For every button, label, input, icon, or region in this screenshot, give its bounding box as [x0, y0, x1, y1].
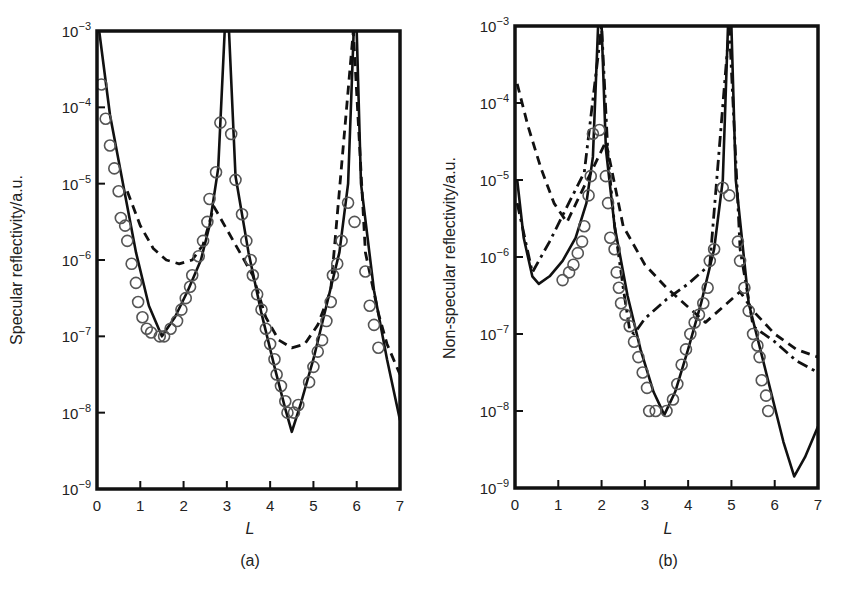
x-tick-label: 7	[814, 496, 822, 513]
y-tick-label: 10−3	[62, 20, 91, 40]
data-point-marker	[137, 312, 148, 323]
figure: 10−310−410−510−610−710−810−9 01234567 Sp…	[0, 0, 843, 596]
x-tick-label: 4	[684, 496, 692, 513]
data-point-marker	[605, 232, 616, 243]
panel-a-frame	[97, 31, 400, 489]
data-point-marker	[349, 216, 360, 227]
x-tick-label: 3	[641, 496, 649, 513]
x-tick-label: 4	[266, 497, 274, 514]
data-point-marker	[226, 129, 237, 140]
data-point-marker	[369, 319, 380, 330]
data-point-marker	[109, 163, 120, 174]
x-tick-label: 1	[554, 496, 562, 513]
data-point-marker	[104, 140, 115, 151]
data-point-marker	[364, 300, 375, 311]
data-point-marker	[130, 277, 141, 288]
x-tick-label: 5	[309, 497, 317, 514]
panel-a-caption: (a)	[240, 552, 260, 569]
data-point-marker	[126, 258, 137, 269]
data-point-marker	[572, 248, 583, 259]
y-tick-label: 10−3	[480, 15, 509, 35]
y-tick-label: 10−5	[62, 173, 91, 193]
y-tick-label: 10−5	[480, 169, 509, 189]
panel-a-x-ticks: 01234567	[93, 481, 404, 514]
y-tick-label: 10−4	[480, 92, 509, 112]
data-point-marker	[133, 296, 144, 307]
data-point-marker	[113, 186, 124, 197]
data-point-marker	[756, 375, 767, 386]
x-tick-label: 1	[136, 497, 144, 514]
x-tick-label: 7	[396, 497, 404, 514]
x-tick-label: 6	[771, 496, 779, 513]
data-point-marker	[644, 406, 655, 417]
dashdot-curve	[517, 26, 818, 373]
panel-b-caption: (b)	[658, 552, 678, 569]
x-tick-label: 3	[223, 497, 231, 514]
y-tick-label: 10−9	[480, 477, 509, 497]
panel-b-y-axis-label: Non-specular reflectivity/a.u.	[441, 157, 458, 359]
y-tick-label: 10−6	[62, 249, 91, 269]
panel-a: 10−310−410−510−610−710−810−9 01234567 Sp…	[8, 20, 404, 569]
x-tick-label: 0	[93, 497, 101, 514]
dashed-curve	[517, 84, 818, 357]
x-tick-label: 2	[597, 496, 605, 513]
data-point-marker	[594, 124, 605, 135]
data-point-marker	[312, 346, 323, 357]
data-point-marker	[724, 190, 735, 201]
y-tick-label: 10−7	[62, 325, 91, 345]
x-tick-label: 2	[179, 497, 187, 514]
panel-b-x-axis-label: L	[664, 520, 673, 537]
y-tick-label: 10−6	[480, 246, 509, 266]
y-tick-label: 10−8	[480, 400, 509, 420]
data-point-marker	[642, 382, 653, 393]
x-tick-label: 5	[727, 496, 735, 513]
y-tick-label: 10−7	[480, 323, 509, 343]
data-point-marker	[373, 342, 384, 353]
y-tick-label: 10−8	[62, 402, 91, 422]
y-tick-label: 10−4	[62, 96, 91, 116]
panel-a-x-axis-label: L	[246, 520, 255, 537]
panel-b: 10−310−410−510−610−710−810−9 01234567 No…	[441, 15, 822, 569]
panel-b-frame	[515, 26, 818, 488]
panel-b-curves	[517, 26, 818, 476]
data-point-marker	[763, 406, 774, 417]
panel-a-y-axis-label: Specular reflectivity/a.u.	[8, 175, 25, 345]
data-point-marker	[650, 406, 661, 417]
panel-b-x-ticks: 01234567	[511, 480, 822, 513]
data-point-marker	[122, 235, 133, 246]
solid-curve	[99, 31, 400, 432]
panel-a-curves	[96, 31, 400, 432]
x-tick-label: 6	[353, 497, 361, 514]
data-point-marker	[557, 275, 568, 286]
y-tick-label: 10−9	[62, 478, 91, 498]
data-point-marker	[761, 390, 772, 401]
data-point-marker	[577, 236, 588, 247]
data-point-marker	[343, 197, 354, 208]
x-tick-label: 0	[511, 496, 519, 513]
